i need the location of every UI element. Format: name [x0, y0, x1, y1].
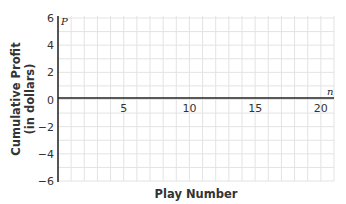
- y-variable: P: [60, 16, 68, 27]
- x-tick-label: 15: [248, 102, 262, 115]
- x-variable: n: [327, 86, 333, 97]
- y-tick-label: 4: [47, 39, 54, 52]
- y-tick-label: 6: [47, 12, 54, 25]
- y-tick-label: −4: [38, 148, 54, 161]
- y-axis-label-line2: (in dollars): [23, 64, 37, 135]
- x-tick-label: 5: [120, 102, 127, 115]
- x-tick-label: 10: [182, 102, 196, 115]
- x-tick-label: 20: [314, 102, 328, 115]
- y-tick-labels: 6420−2−4−6: [38, 12, 54, 188]
- y-tick-label: −6: [38, 175, 54, 188]
- y-tick-label: 0: [47, 94, 54, 107]
- y-tick-label: −2: [38, 121, 54, 134]
- chart: P n 5101520 6420−2−4−6 Play Number Cumul…: [0, 0, 346, 204]
- x-axis-label: Play Number: [155, 187, 238, 201]
- y-axis-label-line1: Cumulative Profit: [9, 42, 23, 156]
- y-tick-label: 2: [47, 66, 54, 79]
